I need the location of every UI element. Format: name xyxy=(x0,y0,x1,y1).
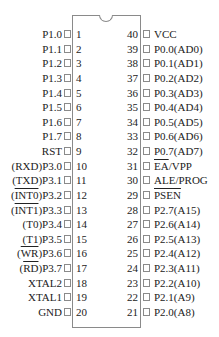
pin-label-text: P2.3(A11) xyxy=(154,262,200,274)
pin-label-text: P2.0(A8) xyxy=(154,306,195,318)
pin-terminal-icon xyxy=(64,89,71,97)
pin-row: (RXD)P3.0 xyxy=(0,159,72,173)
pin-label: P0.0(AD0) xyxy=(154,42,203,56)
pin-terminal-icon xyxy=(64,308,71,316)
pin-label-active-low: RD xyxy=(23,262,38,274)
pin-label-text: P2.2(A10) xyxy=(154,277,200,289)
pin-label-active-low: WR xyxy=(21,247,39,259)
pin-label-text: P1.6 xyxy=(42,116,62,128)
pin-row: P2.0(A8) xyxy=(141,305,219,319)
pin-row: (RD)P3.7 xyxy=(0,261,72,275)
pin-row: P2.2(A10) xyxy=(141,276,219,290)
pin-label: VCC xyxy=(154,27,177,41)
pin-label-text: ALE/PROG xyxy=(154,174,208,186)
pin-number: 5 xyxy=(76,86,82,100)
pin-label-active-low: EA xyxy=(154,160,169,172)
pin-terminal-icon xyxy=(64,59,71,67)
pin-terminal-icon xyxy=(143,176,150,184)
pin-number: 40 xyxy=(122,27,138,41)
pin-number: 13 xyxy=(76,203,87,217)
pin-row: (TXD)P3.1 xyxy=(0,173,72,187)
pin-row: P1.6 xyxy=(0,115,72,129)
pin-terminal-icon xyxy=(143,89,150,97)
pin-number: 36 xyxy=(122,86,138,100)
pin-label: P1.4 xyxy=(42,86,62,100)
pin-number: 27 xyxy=(122,217,138,231)
pin-number: 3 xyxy=(76,56,82,70)
chip-notch xyxy=(99,15,113,22)
pin-number: 21 xyxy=(122,305,138,319)
pin-label-text: P1.5 xyxy=(42,101,62,113)
pin-row: P2.4(A12) xyxy=(141,246,219,260)
pin-label: P2.2(A10) xyxy=(154,276,200,290)
pin-number: 11 xyxy=(76,173,87,187)
pin-label-text: P0.6(AD6) xyxy=(154,130,203,142)
pin-label-text: XTAL1 xyxy=(28,291,62,303)
pin-row: P0.4(AD4) xyxy=(141,100,219,114)
pin-terminal-icon xyxy=(143,220,150,228)
pin-label: P0.4(AD4) xyxy=(154,100,203,114)
pin-row: P2.7(A15) xyxy=(141,203,219,217)
pin-label: (RD)P3.7 xyxy=(20,261,62,275)
pin-terminal-icon xyxy=(143,206,150,214)
pin-terminal-icon xyxy=(64,191,71,199)
pin-number: 26 xyxy=(122,232,138,246)
pin-number: 2 xyxy=(76,42,82,56)
pin-number: 6 xyxy=(76,100,82,114)
pin-row: VCC xyxy=(141,27,219,41)
pin-label-text: (TXD)P3.1 xyxy=(12,174,62,186)
pin-label: P1.5 xyxy=(42,100,62,114)
pin-row: P1.3 xyxy=(0,71,72,85)
pin-row: (T0)P3.4 xyxy=(0,217,72,231)
pin-number: 29 xyxy=(122,188,138,202)
pin-label: P2.6(A14) xyxy=(154,217,200,231)
pin-terminal-icon xyxy=(64,162,71,170)
pin-terminal-icon xyxy=(143,74,150,82)
pin-terminal-icon xyxy=(64,220,71,228)
pin-terminal-icon xyxy=(143,45,150,53)
pin-number: 39 xyxy=(122,42,138,56)
pin-label: RST xyxy=(42,144,62,158)
pin-label-text: P1.1 xyxy=(42,43,62,55)
pin-label-text: P1.2 xyxy=(42,57,62,69)
pin-label: (INT0)P3.2 xyxy=(11,188,62,202)
pin-terminal-icon xyxy=(143,162,150,170)
pin-row: P0.6(AD6) xyxy=(141,129,219,143)
pin-row: ALE/PROG xyxy=(141,173,219,187)
pin-number: 24 xyxy=(122,261,138,275)
pin-label: PSEN xyxy=(154,188,181,202)
pin-row: XTAL1 xyxy=(0,290,72,304)
pin-terminal-icon xyxy=(143,147,150,155)
pin-terminal-icon xyxy=(143,279,150,287)
pin-terminal-icon xyxy=(143,235,150,243)
pin-label: (T0)P3.4 xyxy=(23,217,62,231)
pin-number: 32 xyxy=(122,144,138,158)
pin-label: P0.5(AD5) xyxy=(154,115,203,129)
pin-row: (INT0)P3.2 xyxy=(0,188,72,202)
pin-label: P2.3(A11) xyxy=(154,261,200,275)
pin-row: P1.7 xyxy=(0,129,72,143)
pin-label: P0.1(AD1) xyxy=(154,56,203,70)
pin-number: 31 xyxy=(122,159,138,173)
pin-number: 15 xyxy=(76,232,87,246)
pin-number: 19 xyxy=(76,290,87,304)
pin-row: P2.1(A9) xyxy=(141,290,219,304)
pin-terminal-icon xyxy=(143,293,150,301)
pin-label-text: P2.7(A15) xyxy=(154,204,200,216)
pin-row: PSEN xyxy=(141,188,219,202)
pin-row: EA/VPP xyxy=(141,159,219,173)
pin-row: P1.1 xyxy=(0,42,72,56)
pin-label-text: RST xyxy=(42,145,62,157)
pin-label: P2.4(A12) xyxy=(154,246,200,260)
pin-number: 33 xyxy=(122,129,138,143)
pin-terminal-icon xyxy=(143,264,150,272)
pin-label-text: (T1)P3.5 xyxy=(23,233,62,245)
pin-terminal-icon xyxy=(143,308,150,316)
pin-label: P0.6(AD6) xyxy=(154,129,203,143)
pin-label-text: P0.5(AD5) xyxy=(154,116,203,128)
pin-terminal-icon xyxy=(64,264,71,272)
pin-label: (WR)P3.6 xyxy=(17,246,62,260)
pin-label-text: P0.3(AD3) xyxy=(154,87,203,99)
pin-number: 17 xyxy=(76,261,87,275)
pin-number: 1 xyxy=(76,27,82,41)
